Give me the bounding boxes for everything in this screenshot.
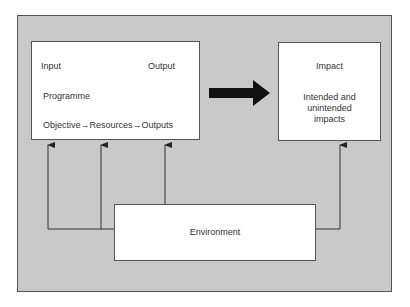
outputs-label: Outputs [142, 120, 174, 130]
arrow-right-icon: → [81, 120, 90, 130]
programme-box: Input Output Programme Objective→Resourc… [31, 41, 200, 140]
environment-label: Environment [115, 227, 315, 237]
impact-line-1: Intended and [279, 92, 380, 102]
impact-box: Impact Intended and unintended impacts [278, 42, 381, 141]
resources-label: Resources [90, 120, 133, 130]
big-right-arrow-icon [209, 80, 270, 106]
environment-to-objective-arrow [48, 145, 114, 229]
objective-label: Objective [43, 120, 81, 130]
environment-box: Environment [114, 204, 316, 261]
programme-label: Programme [43, 91, 90, 101]
input-label: Input [41, 61, 61, 71]
arrow-right-icon: → [133, 120, 142, 130]
impact-line-3: impacts [279, 114, 380, 124]
environment-to-impact-arrow [315, 145, 340, 229]
impact-line-2: unintended [279, 103, 380, 113]
chain-text: Objective→Resources→Outputs [43, 120, 173, 130]
impact-title: Impact [279, 61, 380, 71]
output-label: Output [148, 61, 175, 71]
